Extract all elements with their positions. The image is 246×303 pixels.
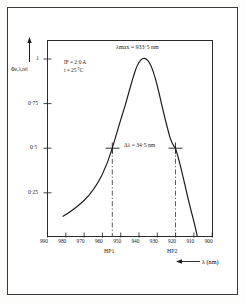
condition-current: IF = 2·0 A (64, 60, 86, 65)
x-tick-label-980: 980 (58, 239, 66, 244)
y-tick-label-05: 0·5 (30, 145, 37, 151)
y-tick-label-1: 1 (36, 56, 39, 62)
x-axis-label-group: λ (nm) (176, 258, 219, 265)
x-tick-label-960: 960 (95, 239, 103, 244)
condition-temperature: t = 25 °C (64, 68, 83, 73)
figure-page: Φe,λ,rel 1 0·75 0·5 0·25 990 980 970 960… (0, 0, 246, 303)
y-axis-label: Φe,λ,rel (11, 66, 28, 72)
hp1-label: HP1 (104, 249, 115, 255)
x-tick-label-920: 920 (168, 239, 176, 244)
bandwidth-annotation: Δλ = 34·5 nm (124, 143, 155, 149)
y-axis-label-text: Φe,λ,rel (11, 66, 28, 72)
x-tick-label-990: 990 (40, 239, 48, 244)
x-axis-label-text: λ (nm) (202, 258, 219, 265)
x-tick-label-930: 930 (150, 239, 158, 244)
x-tick-label-900: 900 (205, 239, 213, 244)
y-tick-label-025: 0·25 (28, 190, 38, 196)
hp2-label: HP2 (167, 249, 178, 255)
x-tick-label-970: 970 (77, 239, 85, 244)
x-tick-label-940: 940 (132, 239, 140, 244)
left-arrow-icon (176, 258, 200, 265)
x-tick-label-950: 950 (113, 239, 121, 244)
y-tick-label-075: 0·75 (28, 101, 38, 107)
x-tick-label-910: 910 (186, 239, 194, 244)
peak-wavelength-annotation: λmax = 933·5 nm (116, 44, 159, 50)
